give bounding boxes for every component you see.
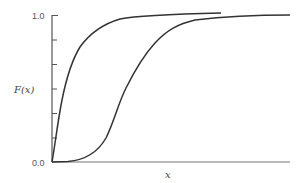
y-tick-label-bottom: 0.0 (32, 158, 45, 168)
curve-1 (52, 13, 221, 162)
y-ticks (52, 16, 58, 139)
cdf-chart: 1.0 0.0 F(x) x (0, 0, 304, 183)
x-axis-label: x (165, 169, 171, 180)
y-axis-label: F(x) (13, 84, 34, 95)
y-tick-label-top: 1.0 (32, 11, 45, 21)
